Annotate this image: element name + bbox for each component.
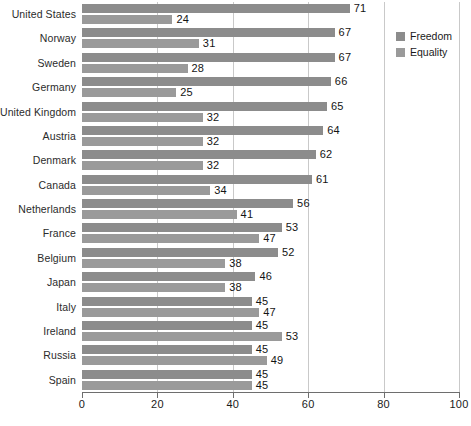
category-label-15: Spain <box>0 374 76 386</box>
bar-equality-5 <box>82 137 203 146</box>
bar-value-freedom-14: 45 <box>256 343 269 355</box>
bar-value-freedom-6: 62 <box>320 148 333 160</box>
bar-equality-15 <box>82 381 252 390</box>
category-label-4: United Kingdom <box>0 106 76 118</box>
bar-value-equality-6: 32 <box>207 159 220 171</box>
bar-value-freedom-8: 56 <box>297 197 310 209</box>
bar-freedom-3 <box>82 77 331 86</box>
category-label-12: Italy <box>0 301 76 313</box>
bar-equality-3 <box>82 88 176 97</box>
bar-equality-6 <box>82 161 203 170</box>
bar-freedom-0 <box>82 4 350 13</box>
bar-equality-4 <box>82 113 203 122</box>
gridline-80 <box>384 2 385 392</box>
bar-value-freedom-9: 53 <box>286 221 299 233</box>
bar-value-equality-12: 47 <box>263 306 276 318</box>
bar-value-freedom-11: 46 <box>259 270 272 282</box>
bar-freedom-14 <box>82 345 252 354</box>
tick-label-100: 100 <box>444 398 471 410</box>
tick-label-60: 60 <box>293 398 323 410</box>
category-label-11: Japan <box>0 276 76 288</box>
tick-label-80: 80 <box>369 398 399 410</box>
bar-equality-1 <box>82 39 199 48</box>
tick-label-0: 0 <box>67 398 97 410</box>
bar-freedom-1 <box>82 28 335 37</box>
tick-label-20: 20 <box>142 398 172 410</box>
bar-freedom-6 <box>82 150 316 159</box>
bar-value-equality-2: 28 <box>192 62 205 74</box>
bar-value-freedom-13: 45 <box>256 319 269 331</box>
category-label-8: Netherlands <box>0 203 76 215</box>
tick-label-40: 40 <box>218 398 248 410</box>
bar-equality-11 <box>82 283 225 292</box>
bar-value-freedom-4: 65 <box>331 100 344 112</box>
bar-value-equality-14: 49 <box>271 354 284 366</box>
bar-equality-13 <box>82 332 282 341</box>
category-label-7: Canada <box>0 179 76 191</box>
bar-equality-0 <box>82 15 172 24</box>
legend-swatch-equality <box>396 48 405 57</box>
bar-value-equality-9: 47 <box>263 232 276 244</box>
category-label-6: Denmark <box>0 154 76 166</box>
bar-freedom-4 <box>82 102 327 111</box>
category-label-3: Germany <box>0 81 76 93</box>
bar-value-freedom-1: 67 <box>339 26 352 38</box>
bar-freedom-13 <box>82 321 252 330</box>
bar-equality-14 <box>82 356 267 365</box>
bar-value-freedom-2: 67 <box>339 51 352 63</box>
bar-value-equality-5: 32 <box>207 135 220 147</box>
bar-freedom-7 <box>82 175 312 184</box>
bar-equality-12 <box>82 308 259 317</box>
legend-label-freedom: Freedom <box>410 30 452 42</box>
bar-freedom-11 <box>82 272 255 281</box>
bar-freedom-12 <box>82 297 252 306</box>
bar-freedom-5 <box>82 126 323 135</box>
legend-label-equality: Equality <box>410 46 447 58</box>
bar-freedom-2 <box>82 53 335 62</box>
legend-item-equality: Equality <box>396 46 466 58</box>
bar-equality-7 <box>82 186 210 195</box>
bar-value-equality-10: 38 <box>229 257 242 269</box>
category-label-10: Belgium <box>0 252 76 264</box>
category-label-1: Norway <box>0 32 76 44</box>
bar-value-freedom-3: 66 <box>335 75 348 87</box>
chart-legend: Freedom Equality <box>396 30 466 62</box>
bar-value-freedom-0: 71 <box>354 2 367 14</box>
bar-equality-2 <box>82 64 188 73</box>
bar-value-freedom-5: 64 <box>327 124 340 136</box>
bar-equality-10 <box>82 259 225 268</box>
legend-swatch-freedom <box>396 32 405 41</box>
bar-value-equality-11: 38 <box>229 281 242 293</box>
category-label-9: France <box>0 227 76 239</box>
bar-freedom-10 <box>82 248 278 257</box>
bar-equality-9 <box>82 234 259 243</box>
category-label-14: Russia <box>0 349 76 361</box>
bar-equality-8 <box>82 210 237 219</box>
bar-value-equality-13: 53 <box>286 330 299 342</box>
bar-value-equality-0: 24 <box>176 13 189 25</box>
bar-value-equality-4: 32 <box>207 111 220 123</box>
x-axis-line <box>82 392 460 393</box>
bar-value-equality-7: 34 <box>214 184 227 196</box>
bar-freedom-15 <box>82 370 252 379</box>
category-label-5: Austria <box>0 130 76 142</box>
bar-value-freedom-10: 52 <box>282 246 295 258</box>
category-label-2: Sweden <box>0 57 76 69</box>
bar-value-equality-3: 25 <box>180 86 193 98</box>
bar-value-freedom-7: 61 <box>316 173 329 185</box>
category-label-0: United States <box>0 8 76 20</box>
bar-value-equality-1: 31 <box>203 37 216 49</box>
category-label-13: Ireland <box>0 325 76 337</box>
bar-freedom-8 <box>82 199 293 208</box>
bar-value-equality-8: 41 <box>241 208 254 220</box>
bar-value-equality-15: 45 <box>256 379 269 391</box>
bar-freedom-9 <box>82 223 282 232</box>
bar-chart: 7124673167286625653264326232613456415347… <box>0 0 471 426</box>
legend-item-freedom: Freedom <box>396 30 466 42</box>
